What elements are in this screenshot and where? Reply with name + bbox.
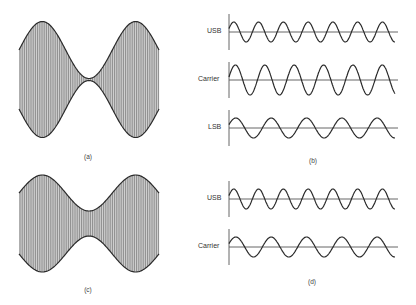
lsb-label-b: LSB (208, 123, 221, 130)
caption-c: (c) (84, 286, 92, 293)
panel-c-envelope (19, 175, 159, 272)
caption-d: (d) (308, 278, 316, 285)
panel-a-envelope (19, 22, 159, 138)
carrier-label-b: Carrier (198, 75, 219, 82)
am-figure (0, 0, 416, 305)
caption-b: (b) (309, 157, 317, 164)
carrier-label-d: Carrier (198, 242, 219, 249)
caption-a: (a) (84, 153, 92, 160)
usb-label-d: USB (207, 194, 221, 201)
panel-b-components (229, 14, 398, 146)
panel-d-components (229, 181, 398, 265)
usb-label-b: USB (207, 27, 221, 34)
